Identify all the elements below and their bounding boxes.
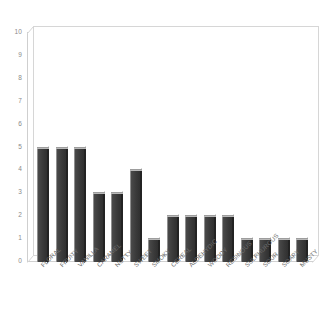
bar-front-face — [74, 148, 84, 263]
bar-top-cap — [56, 147, 68, 149]
bar-top-cap — [167, 215, 179, 217]
y-axis-tick-label: 4 — [18, 166, 22, 173]
y-axis-tick-label: 9 — [18, 52, 22, 59]
bar — [74, 148, 84, 263]
bar-side-face — [84, 146, 86, 262]
bar-top-cap — [204, 215, 216, 217]
bar-top-cap — [278, 238, 290, 240]
bar — [130, 170, 140, 262]
y-axis-tick-label: 1 — [18, 235, 22, 242]
bar-side-face — [66, 146, 68, 262]
bar-front-face — [130, 170, 140, 262]
y-axis-tick-label: 3 — [18, 189, 22, 196]
bar-side-face — [103, 192, 105, 262]
y-axis-tick-label: 5 — [18, 143, 22, 150]
y-axis-tick-label: 0 — [18, 258, 22, 265]
bar-top-cap — [148, 238, 160, 240]
y-axis-tick-label: 6 — [18, 120, 22, 127]
bar-side-face — [47, 146, 49, 262]
y-axis-tick-label: 7 — [18, 97, 22, 104]
bar-front-face — [37, 148, 47, 263]
y-axis-tick-label: 2 — [18, 212, 22, 219]
plot-area: 012345678910 — [27, 26, 319, 262]
bar-top-cap — [296, 238, 308, 240]
bar-top-cap — [185, 215, 197, 217]
bar-chart-figure: 012345678910 FLORALFRUITYVANILLACARAMELN… — [0, 0, 326, 324]
bar — [37, 148, 47, 263]
bars-layer — [27, 26, 319, 262]
x-axis-labels: FLORALFRUITYVANILLACARAMELNUTTYSWEETSMOK… — [27, 264, 319, 322]
bar-top-cap — [222, 215, 234, 217]
bar-top-cap — [93, 192, 105, 194]
bar-side-face — [121, 192, 123, 262]
bar-top-cap — [130, 169, 142, 171]
bar-top-cap — [74, 147, 86, 149]
bar-top-cap — [37, 147, 49, 149]
y-axis-tick-label: 10 — [15, 29, 22, 36]
y-axis-tick-label: 8 — [18, 75, 22, 82]
bar-top-cap — [111, 192, 123, 194]
bar-side-face — [140, 169, 142, 262]
